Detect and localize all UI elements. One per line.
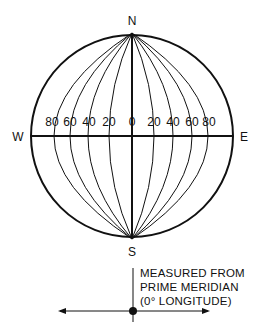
- west-label: W: [12, 130, 24, 144]
- label-e20: 20: [147, 115, 161, 129]
- label-0: 0: [129, 115, 136, 129]
- label-e40: 40: [166, 115, 180, 129]
- arrow-right-icon: [202, 308, 210, 314]
- north-label: N: [128, 14, 137, 28]
- longitude-labels: 80 60 40 20 0 20 40 60 80: [45, 115, 216, 129]
- measurement-note: MEASURED FROM PRIME MERIDIAN (0° LONGITU…: [140, 266, 245, 308]
- label-w80: 80: [45, 115, 59, 129]
- label-e60: 60: [185, 115, 199, 129]
- label-w20: 20: [102, 115, 116, 129]
- note-line-1: MEASURED FROM: [140, 266, 245, 280]
- note-line-2: PRIME MERIDIAN: [140, 280, 245, 294]
- note-line-3: (0° LONGITUDE): [140, 294, 245, 308]
- label-e80: 80: [202, 115, 216, 129]
- origin-dot: [129, 307, 137, 315]
- label-w40: 40: [82, 115, 96, 129]
- south-label: S: [128, 245, 136, 259]
- label-w60: 60: [63, 115, 77, 129]
- east-label: E: [240, 130, 248, 144]
- arrow-left-icon: [58, 308, 66, 314]
